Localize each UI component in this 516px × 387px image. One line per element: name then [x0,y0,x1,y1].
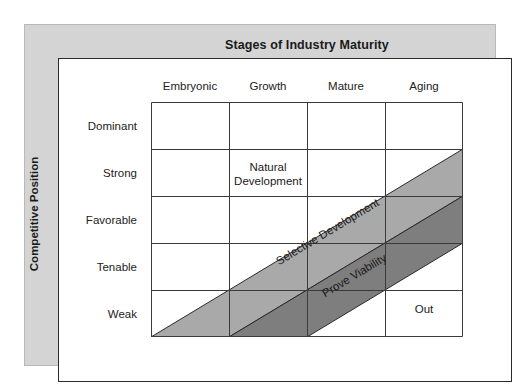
cell-note-natural-development-line2: Development [229,174,307,188]
column-header-aging: Aging [385,80,463,96]
maturity-matrix: Natural Development Out Selective Develo… [151,102,463,337]
column-header-row: Embryonic Growth Mature Aging [151,80,463,96]
cell-note-natural-development: Natural Development [229,160,307,188]
column-header-embryonic: Embryonic [151,80,229,96]
row-label-favorable: Favorable [55,196,145,243]
row-label-tenable: Tenable [55,243,145,290]
row-label-weak: Weak [55,290,145,337]
y-axis-title: Competitive Position [28,134,40,294]
cell-note-out: Out [385,302,463,316]
cell-note-natural-development-line1: Natural [229,160,307,174]
row-label-dominant: Dominant [55,102,145,149]
column-header-growth: Growth [229,80,307,96]
chart-title: Stages of Industry Maturity [151,38,463,52]
column-header-mature: Mature [307,80,385,96]
row-label-strong: Strong [55,149,145,196]
row-label-column: Dominant Strong Favorable Tenable Weak [55,102,145,337]
